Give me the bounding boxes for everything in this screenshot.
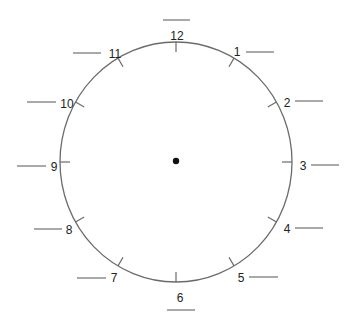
hour-number-4: 4 — [284, 222, 291, 236]
hour-number-12: 12 — [170, 29, 184, 43]
hour-number-7: 7 — [111, 271, 118, 285]
hour-tick-8 — [76, 217, 85, 222]
hour-number-9: 9 — [51, 160, 58, 174]
answer-blank-lines — [17, 20, 339, 310]
hour-numbers: 12 1 2 3 4 5 6 7 8 9 10 11 — [51, 29, 307, 305]
hour-number-3: 3 — [300, 159, 307, 173]
clock-face-diagram: 12 1 2 3 4 5 6 7 8 9 10 11 — [0, 0, 357, 325]
hour-number-6: 6 — [177, 291, 184, 305]
hour-tick-1 — [229, 58, 234, 67]
hour-tick-4 — [268, 217, 277, 222]
clock-center-dot — [173, 158, 179, 164]
hour-number-5: 5 — [238, 271, 245, 285]
hour-number-11: 11 — [109, 47, 122, 61]
hour-number-2: 2 — [284, 96, 291, 110]
hour-tick-5 — [229, 257, 234, 266]
hour-tick-7 — [118, 257, 123, 266]
hour-number-8: 8 — [66, 223, 73, 237]
hour-tick-10 — [76, 102, 85, 107]
hour-number-1: 1 — [234, 45, 241, 59]
hour-tick-2 — [268, 102, 277, 107]
hour-number-10: 10 — [60, 97, 74, 111]
